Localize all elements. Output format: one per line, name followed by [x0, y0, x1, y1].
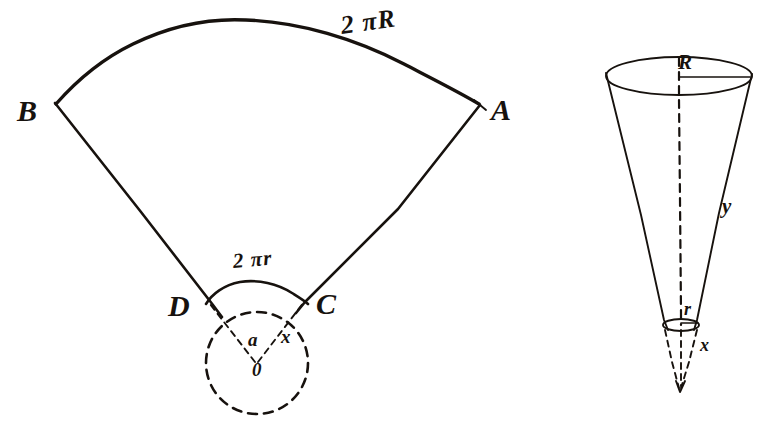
sector-vertex-label-A: A: [491, 95, 511, 125]
sector-center-label-O: 0: [252, 360, 262, 379]
cone-cut-radius-label-r: r: [684, 300, 691, 318]
outer-arc-BA: [56, 20, 479, 104]
cone-slant-label-y: y: [722, 196, 731, 217]
inner-arc-DC: [206, 281, 308, 304]
cone-apex-height-label-x: x: [700, 336, 709, 354]
cone-group: [606, 57, 752, 392]
sector-vertex-label-C: C: [316, 289, 336, 319]
sector-group: [55, 20, 486, 414]
sector-angle-label-x: x: [281, 327, 291, 346]
cone-slant-left: [606, 73, 668, 330]
sector-edge-AC: [296, 105, 480, 313]
cone-axis-dashed: [679, 58, 681, 325]
cone-top-radius-label-R: R: [678, 52, 692, 73]
cone-apex-dashed-left: [665, 330, 679, 388]
sector-vertex-label-B: B: [17, 96, 37, 126]
sector-edge-BD: [55, 103, 222, 317]
hand-drawn-geometry-svg: [0, 0, 773, 447]
cone-apex-dashed-right: [681, 330, 697, 388]
inner-arc-length-label: 2 πr: [232, 248, 273, 272]
sector-vertex-label-D: D: [168, 291, 190, 321]
sector-angle-label-a: a: [248, 330, 258, 349]
figure-canvas: B A D C 2 πR 2 πr a x 0 R y r x: [0, 0, 773, 447]
